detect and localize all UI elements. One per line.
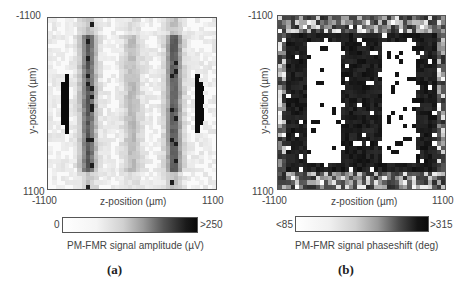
panel-b-y-top-tick: -1100 <box>248 10 273 21</box>
panel-a-x-right-tick: 1100 <box>202 195 224 206</box>
panel-a-y-top-tick: -1100 <box>16 10 41 21</box>
panel-b-colorbar <box>295 216 429 232</box>
panel-a-x-left-tick: -1100 <box>32 195 57 206</box>
panel-a-y-axis-label: y-position (µm) <box>27 61 38 141</box>
panel-b-x-axis-label: z-position (µm) <box>331 196 397 207</box>
panel-b-x-left-tick: -1100 <box>262 195 287 206</box>
panel-a-colorbar-title: PM-FMR signal amplitude (µV) <box>67 240 204 251</box>
panel-b-y-axis-label: y-position (µm) <box>259 61 270 141</box>
panel-b-colorbar-title: PM-FMR signal phaseshift (deg) <box>295 240 438 251</box>
panel-a-caption: (a) <box>107 262 122 278</box>
panel-a-heatmap <box>47 17 217 190</box>
panel-a-colorbar <box>62 217 198 233</box>
panel-b-colorbar-min: <85 <box>276 219 293 230</box>
panel-b-x-right-tick: 1100 <box>432 195 454 206</box>
panel-b-caption: (b) <box>338 262 354 278</box>
panel-a-colorbar-min: 0 <box>54 219 60 230</box>
panel-b-colorbar-max: >315 <box>430 219 453 230</box>
panel-b-heatmap <box>277 15 446 190</box>
panel-a-x-axis-label: z-position (µm) <box>100 196 166 207</box>
panel-a-colorbar-max: >250 <box>200 219 223 230</box>
